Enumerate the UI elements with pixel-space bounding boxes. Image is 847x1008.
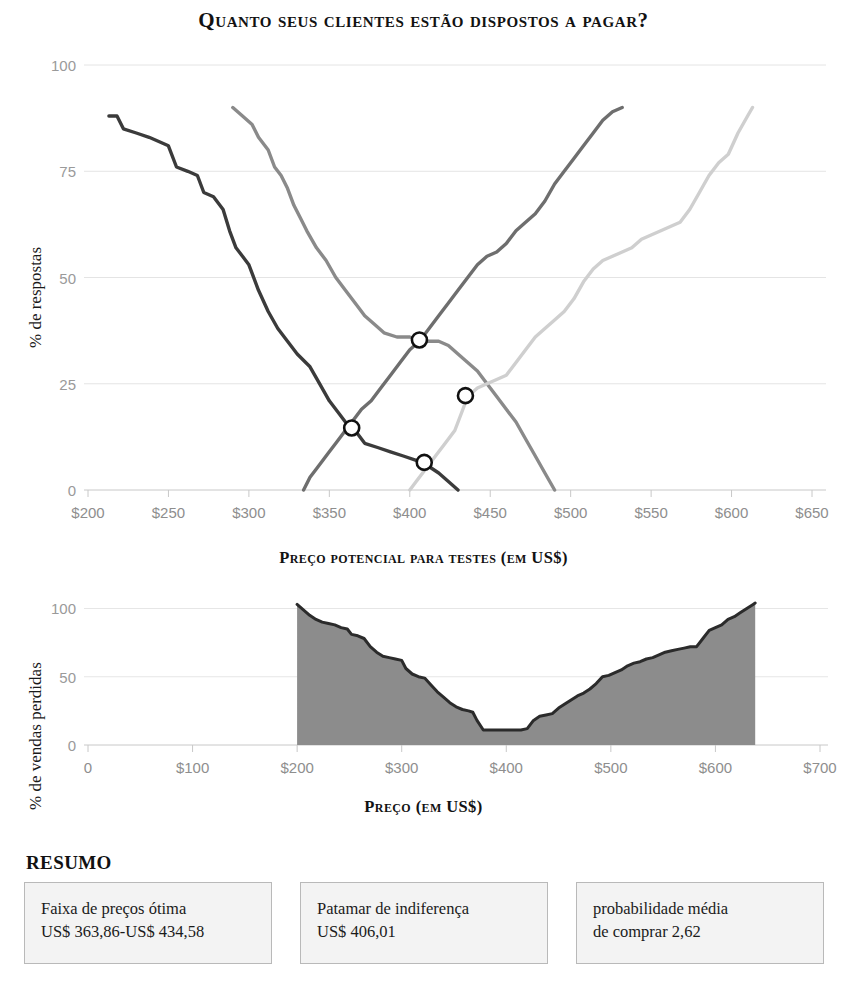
page-title: Quanto seus clientes estão dispostos a p… [0, 8, 847, 33]
x-tick-label: $600 [699, 759, 732, 776]
summary-box-line2: de comprar 2,62 [593, 920, 809, 943]
lost-sales-svg: 0501000$100$200$300$400$500$600$700 [0, 580, 847, 780]
x-tick-label: $600 [715, 504, 748, 521]
x-tick-label: $500 [554, 504, 587, 521]
intersection-marker [344, 420, 359, 435]
series-line [109, 116, 458, 490]
summary-box-faixa-de-precos-otima: Faixa de preços ótima US$ 363,86-US$ 434… [24, 882, 272, 964]
summary-heading: RESUMO [26, 852, 824, 874]
x-tick-label: $250 [152, 504, 185, 521]
y-tick-label: 50 [59, 669, 76, 686]
x-tick-label: $350 [313, 504, 346, 521]
series-line [410, 108, 753, 491]
x-tick-label: $500 [594, 759, 627, 776]
y-tick-label: 25 [59, 376, 76, 393]
chart-lost-sales: 0501000$100$200$300$400$500$600$700 [0, 580, 847, 780]
chart-price-sensitivity: 0255075100$200$250$300$350$400$450$500$5… [0, 46, 847, 546]
x-tick-label: $200 [71, 504, 104, 521]
summary-box-line2: US$ 406,01 [317, 920, 533, 943]
y-axis-label-bottom: % de vendas perdidas [26, 662, 46, 810]
y-tick-label: 0 [68, 737, 76, 754]
series-line [233, 108, 555, 491]
summary-section: RESUMO Faixa de preços ótima US$ 363,86-… [24, 852, 824, 964]
intersection-marker [417, 455, 432, 470]
x-tick-label: 0 [84, 759, 92, 776]
y-tick-label: 50 [59, 270, 76, 287]
summary-box-line2: US$ 363,86-US$ 434,58 [41, 920, 257, 943]
x-tick-label: $550 [634, 504, 667, 521]
area-fill [297, 603, 755, 745]
x-tick-label: $300 [232, 504, 265, 521]
x-tick-label: $700 [803, 759, 836, 776]
x-tick-label: $400 [393, 504, 426, 521]
summary-box-line1: probabilidade média [593, 897, 809, 920]
y-tick-label: 75 [59, 163, 76, 180]
x-axis-title-bottom: Preço (em US$) [0, 797, 847, 817]
summary-box-probabilidade-media: probabilidade média de comprar 2,62 [576, 882, 824, 964]
x-tick-label: $650 [795, 504, 828, 521]
summary-box-line1: Patamar de indiferença [317, 897, 533, 920]
intersection-marker [412, 332, 427, 347]
y-tick-label: 100 [51, 600, 76, 617]
summary-boxes: Faixa de preços ótima US$ 363,86-US$ 434… [24, 882, 824, 964]
summary-box-patamar-de-indiferenca: Patamar de indiferença US$ 406,01 [300, 882, 548, 964]
price-sensitivity-svg: 0255075100$200$250$300$350$400$450$500$5… [0, 46, 847, 546]
x-tick-label: $450 [474, 504, 507, 521]
y-tick-label: 0 [68, 482, 76, 499]
x-tick-label: $200 [280, 759, 313, 776]
x-tick-label: $100 [176, 759, 209, 776]
summary-box-line1: Faixa de preços ótima [41, 897, 257, 920]
intersection-marker [458, 388, 473, 403]
x-tick-label: $400 [490, 759, 523, 776]
x-tick-label: $300 [385, 759, 418, 776]
x-axis-title-top: Preço potencial para testes (em US$) [0, 548, 847, 568]
chart-page: Quanto seus clientes estão dispostos a p… [0, 0, 847, 1008]
y-axis-label-top: % de respostas [26, 247, 46, 348]
y-tick-label: 100 [51, 57, 76, 74]
